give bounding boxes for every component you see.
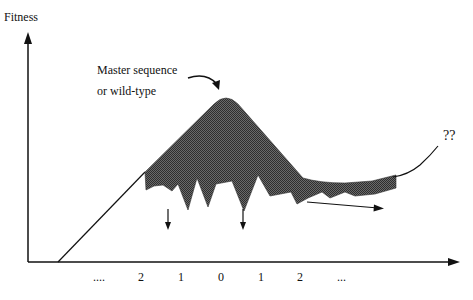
- down-arrow-left-icon: [165, 222, 171, 230]
- drift-arrow: [307, 202, 378, 208]
- x-axis: [28, 258, 460, 266]
- x-tick-left-ellipsis: ....: [93, 270, 105, 285]
- diagram-graphics: [0, 0, 473, 300]
- x-tick-1-left: 1: [178, 270, 184, 285]
- x-tick-1-right: 1: [258, 270, 264, 285]
- x-axis-arrowhead-icon: [448, 258, 460, 266]
- y-axis-label: Fitness: [4, 10, 38, 25]
- y-axis: [24, 32, 32, 262]
- y-axis-arrowhead-icon: [24, 32, 32, 44]
- x-tick-0: 0: [218, 270, 224, 285]
- fitness-peak-region: [145, 98, 396, 211]
- unknown-curve: [393, 146, 438, 177]
- x-tick-right-ellipsis: ...: [337, 270, 346, 285]
- peak-label-line2: or wild-type: [97, 84, 156, 99]
- x-tick-2-left: 2: [138, 270, 144, 285]
- x-tick-2-right: 2: [297, 270, 303, 285]
- unknown-label: ??: [443, 128, 455, 144]
- approach-line: [58, 172, 145, 262]
- peak-label-line1: Master sequence: [97, 63, 177, 78]
- down-arrow-right-icon: [240, 222, 246, 230]
- drift-arrowhead-icon: [374, 205, 385, 212]
- fitness-landscape-diagram: Fitness Master sequence or wild-type ?? …: [0, 0, 473, 300]
